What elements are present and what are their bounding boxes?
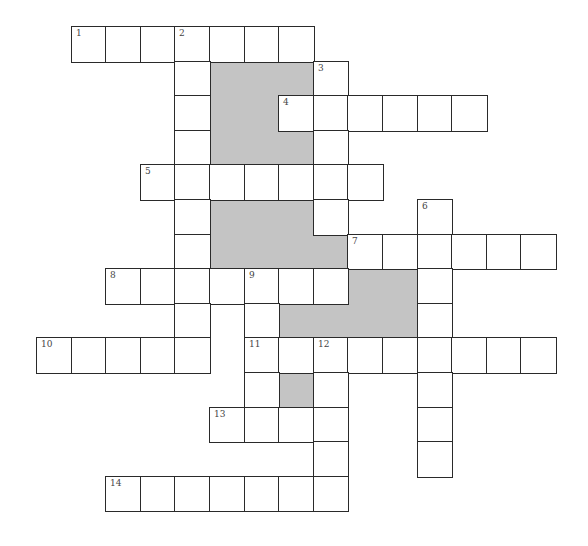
crossword-cell-9[interactable]: 9 [244,268,280,305]
clue-number: 7 [352,237,358,246]
crossword-cell[interactable] [244,303,280,339]
crossword-cell[interactable] [174,337,211,374]
crossword-cell[interactable] [209,268,246,305]
crossword-cell[interactable] [313,164,349,201]
shaded-block [279,304,315,339]
crossword-cell-2[interactable]: 2 [174,26,211,63]
crossword-cell[interactable] [174,61,211,97]
crossword-cell[interactable] [174,234,211,270]
shaded-block [348,269,384,305]
shaded-block [279,373,315,409]
crossword-cell[interactable] [313,476,349,512]
crossword-cell[interactable] [417,234,453,270]
crossword-cell[interactable] [71,337,107,374]
shaded-block [245,131,280,166]
clue-number: 14 [110,479,121,488]
crossword-cell[interactable] [278,268,315,305]
crossword-cell[interactable] [174,476,211,512]
crossword-cell[interactable] [174,95,211,132]
crossword-cell-11[interactable]: 11 [244,337,280,374]
crossword-cell[interactable] [417,407,453,443]
crossword-cell[interactable] [174,303,211,339]
crossword-cell-13[interactable]: 13 [209,407,246,443]
crossword-cell-3[interactable]: 3 [313,61,349,97]
crossword-cell[interactable] [486,234,522,270]
shaded-block [348,304,384,339]
shaded-block [314,304,349,339]
crossword-cell[interactable] [520,337,557,374]
crossword-cell[interactable] [313,441,349,478]
crossword-cell[interactable] [140,476,176,512]
crossword-cell-6[interactable]: 6 [417,199,453,236]
crossword-cell-5[interactable]: 5 [140,164,176,201]
crossword-cell-1[interactable]: 1 [71,26,107,63]
crossword-cell[interactable] [174,130,211,166]
shaded-block [245,235,280,270]
crossword-cell[interactable] [347,337,384,374]
shaded-block [279,62,315,97]
shaded-block [279,131,315,166]
crossword-cell[interactable] [209,26,246,63]
clue-number: 6 [422,202,428,211]
crossword-cell[interactable] [382,337,419,374]
clue-number: 8 [110,271,116,280]
crossword-cell[interactable] [417,372,453,409]
crossword-cell[interactable] [244,372,280,409]
crossword-cell[interactable] [140,26,176,63]
crossword-cell[interactable] [244,164,280,201]
shaded-block [245,96,280,132]
crossword-cell[interactable] [313,268,349,305]
crossword-cell[interactable] [209,476,246,512]
crossword-cell-8[interactable]: 8 [105,268,142,305]
crossword-cell[interactable] [417,95,453,132]
crossword-cell[interactable] [313,372,349,409]
crossword-cell[interactable] [451,337,488,374]
crossword-cell[interactable] [174,164,211,201]
clue-number: 3 [318,64,324,73]
shaded-block [210,200,246,236]
crossword-cell[interactable] [140,268,176,305]
crossword-cell[interactable] [486,337,522,374]
crossword-cell-12[interactable]: 12 [313,337,349,374]
crossword-cell[interactable] [451,234,488,270]
crossword-cell[interactable] [140,337,176,374]
crossword-cell[interactable] [313,130,349,166]
crossword-cell[interactable] [347,164,384,201]
crossword-cell[interactable] [278,26,315,63]
crossword-cell[interactable] [313,199,349,236]
crossword-cell[interactable] [417,441,453,478]
crossword-cell[interactable] [174,268,211,305]
crossword-cell[interactable] [244,26,280,63]
shaded-block [279,235,315,270]
crossword-cell[interactable] [347,95,384,132]
crossword-cell[interactable] [451,95,488,132]
crossword-cell[interactable] [313,95,349,132]
crossword-cell-14[interactable]: 14 [105,476,142,512]
crossword-cell[interactable] [417,268,453,305]
crossword-cell[interactable] [382,234,419,270]
crossword-cell[interactable] [244,407,280,443]
crossword-cell[interactable] [174,199,211,236]
crossword-cell[interactable] [209,164,246,201]
crossword-cell[interactable] [382,95,419,132]
shaded-block [383,269,419,305]
crossword-cell[interactable] [105,26,142,63]
crossword-cell[interactable] [520,234,557,270]
crossword-cell[interactable] [417,303,453,339]
crossword-cell[interactable] [278,337,315,374]
crossword-cell-10[interactable]: 10 [36,337,73,374]
crossword-cell[interactable] [417,337,453,374]
crossword-cell[interactable] [244,476,280,512]
shaded-block [383,304,419,339]
shaded-block [314,235,349,270]
shaded-block [245,62,280,97]
crossword-cell-7[interactable]: 7 [347,234,384,270]
crossword-cell[interactable] [278,476,315,512]
clue-number: 2 [179,29,185,38]
clue-number: 5 [145,167,151,176]
crossword-cell[interactable] [278,164,315,201]
crossword-cell[interactable] [278,407,315,443]
crossword-cell[interactable] [105,337,142,374]
crossword-cell-4[interactable]: 4 [278,95,315,132]
crossword-cell[interactable] [313,407,349,443]
